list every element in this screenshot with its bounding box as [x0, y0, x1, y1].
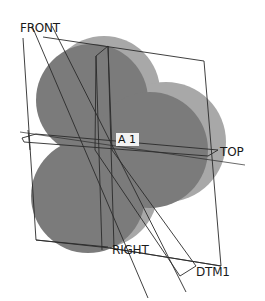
datum-label-dtm1[interactable]: DTM1: [196, 266, 230, 278]
datum-label-front[interactable]: FRONT: [20, 22, 60, 34]
extrusion-front-face: [31, 44, 208, 253]
datum-label-top[interactable]: TOP: [220, 146, 243, 158]
cad-viewport[interactable]: FRONT TOP RIGHT DTM1 A 1: [0, 0, 265, 301]
datum-label-right[interactable]: RIGHT: [112, 244, 149, 256]
datum-axis-label[interactable]: A 1: [116, 133, 139, 146]
